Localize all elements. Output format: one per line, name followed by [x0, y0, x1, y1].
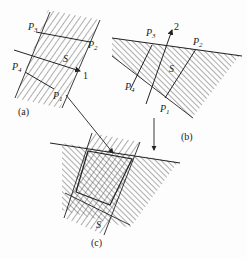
- panel-c: S (c): [50, 133, 180, 249]
- caption-b: (b): [181, 131, 193, 143]
- caption-a: (a): [18, 106, 29, 118]
- panel-b: P3 2 P2 P4 P1 S (b): [112, 21, 242, 143]
- label-s-c: S: [96, 219, 101, 230]
- label-direction-2: 2: [174, 21, 179, 32]
- label-p1-b: P1: [159, 103, 170, 116]
- label-p3-a: P3: [27, 21, 38, 34]
- label-p4-a: P4: [11, 61, 22, 74]
- panel-a: P3 P2 P4 P1 S 1 (a): [11, 10, 100, 118]
- label-p3-b: P3: [145, 27, 156, 40]
- label-p2-a: P2: [87, 39, 98, 52]
- diagram-canvas: P3 P2 P4 P1 S 1 (a) P3 2 P2 P4 P1 S (b) …: [0, 0, 247, 259]
- label-s-a: S: [63, 53, 68, 64]
- label-p2-b: P2: [192, 36, 203, 49]
- label-direction-1: 1: [83, 70, 88, 81]
- caption-c: (c): [91, 237, 102, 249]
- label-s-b: S: [169, 63, 174, 74]
